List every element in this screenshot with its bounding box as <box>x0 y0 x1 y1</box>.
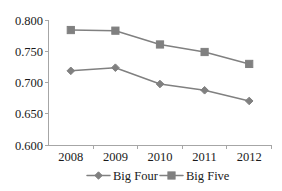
data-point-diamond <box>245 97 253 105</box>
data-point-square <box>246 60 253 67</box>
legend-marker-diamond-icon <box>95 172 102 179</box>
y-tick-marks <box>45 21 49 146</box>
data-point-square <box>201 48 208 55</box>
x-tick-label: 2010 <box>148 150 173 164</box>
y-tick-label: 0.750 <box>15 45 43 59</box>
data-point-diamond <box>67 67 75 75</box>
y-tick-label: 0.600 <box>15 139 43 153</box>
data-point-diamond <box>201 86 209 94</box>
series-big-four <box>67 64 253 105</box>
x-axis-labels: 2008 2009 2010 2011 2012 <box>58 150 261 164</box>
x-tick-label: 2011 <box>192 150 217 164</box>
y-tick-label: 0.650 <box>15 107 43 121</box>
y-axis-labels: 0.800 0.750 0.700 0.650 0.600 <box>15 14 43 153</box>
line-chart: 0.800 0.750 0.700 0.650 0.600 2008 2009 … <box>0 0 282 191</box>
x-tick-marks <box>93 146 271 150</box>
series-layer <box>67 26 253 104</box>
legend-label-big-four: Big Four <box>113 169 159 183</box>
chart-canvas: 0.800 0.750 0.700 0.650 0.600 2008 2009 … <box>0 0 282 191</box>
x-tick-label: 2009 <box>103 150 128 164</box>
y-tick-label: 0.800 <box>15 14 43 28</box>
x-tick-label: 2012 <box>237 150 262 164</box>
legend-label-big-five: Big Five <box>186 169 230 183</box>
data-point-square <box>112 27 119 34</box>
chart-legend: Big Four Big Five <box>87 169 230 183</box>
data-point-diamond <box>156 80 164 88</box>
y-tick-label: 0.700 <box>15 76 43 90</box>
series-big-five <box>67 26 253 67</box>
data-point-square <box>67 26 74 33</box>
data-point-diamond <box>112 64 120 72</box>
legend-marker-square-icon <box>168 172 175 179</box>
x-tick-label: 2008 <box>58 150 83 164</box>
data-point-square <box>156 41 163 48</box>
